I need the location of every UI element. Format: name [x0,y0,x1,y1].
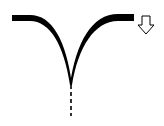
down-arrow-icon [138,16,154,34]
left-branch-curve [12,15,72,85]
merge-diagram [0,0,164,126]
right-branch-curve [70,14,134,85]
